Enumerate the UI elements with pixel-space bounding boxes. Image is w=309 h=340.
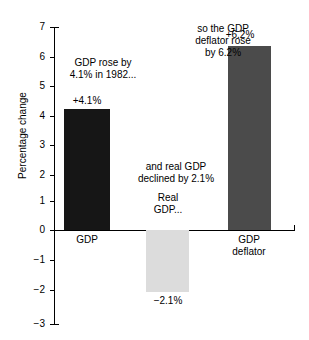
value-label-gdp: +4.1% [57, 95, 117, 106]
chart-container: 7 6 5 4 3 2 1 0 −1 −2 −3 Percentage chan… [0, 0, 309, 340]
zero-baseline-end-cap [294, 225, 295, 231]
y-axis-title: Percentage change [17, 56, 28, 216]
category-label-real-gdp: Real GDP... [138, 192, 198, 216]
bar-gdp [64, 109, 110, 230]
annotation-gdp-deflator: so the GDP deflator rose by 6.2% [185, 23, 261, 59]
value-label-real-gdp: −2.1% [139, 295, 197, 306]
y-tick-label-minus-1: −1 [23, 255, 45, 265]
annotation-gdp: GDP rose by 4.1% in 1982... [54, 57, 152, 81]
category-label-gdp: GDP [57, 234, 117, 246]
bar-gdp-deflator [228, 46, 271, 230]
y-tick-label-minus-2: −2 [23, 285, 45, 295]
bar-real-gdp [146, 230, 189, 292]
y-tick-label-7: 7 [23, 22, 45, 32]
y-tick-label-minus-3: −3 [23, 319, 45, 329]
category-label-gdp-deflator: GDP deflator [214, 234, 284, 258]
annotation-real-gdp: and real GDP declined by 2.1% [128, 161, 224, 185]
y-tick-label-0: 0 [23, 225, 45, 235]
